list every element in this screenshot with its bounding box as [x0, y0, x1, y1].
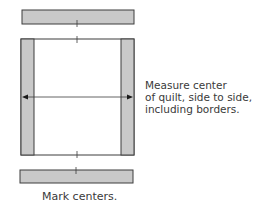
measure-line-2: of quilt, side to side,: [145, 91, 252, 103]
bottom-border-strip: [20, 167, 133, 183]
top-border-strip: [22, 10, 134, 27]
measure-line-3: including borders.: [145, 103, 252, 115]
mark-centers-caption: Mark centers.: [42, 191, 117, 203]
measure-line-1: Measure center: [145, 79, 252, 91]
measure-instruction: Measure center of quilt, side to side, i…: [145, 79, 252, 115]
